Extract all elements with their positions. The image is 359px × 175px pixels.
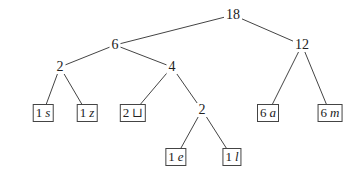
leaf-m: 6m — [318, 104, 343, 122]
node-2-left: 2 — [55, 60, 66, 74]
tree-edge — [115, 15, 233, 45]
leaf-symbol: l — [235, 149, 239, 164]
tree-edge — [60, 45, 115, 67]
leaf-count: 6 — [260, 105, 267, 120]
node-4: 4 — [167, 60, 178, 74]
leaf-symbol: s — [45, 105, 50, 120]
leaf-count: 2 — [123, 105, 130, 120]
leaf-symbol: e — [178, 149, 184, 164]
leaf-symbol: ⊔ — [132, 105, 143, 120]
tree-edge — [115, 45, 172, 67]
node-root: 18 — [224, 8, 242, 22]
node-6: 6 — [110, 38, 121, 52]
leaf-count: 1 — [225, 149, 232, 164]
leaf-count: 1 — [36, 105, 43, 120]
leaf-count: 6 — [321, 105, 328, 120]
tree-edge — [233, 15, 302, 45]
leaf-e: 1e — [165, 148, 186, 166]
node-2-inner: 2 — [197, 103, 208, 117]
leaf-symbol: m — [330, 105, 339, 120]
leaf-space: 2⊔ — [120, 104, 146, 122]
leaf-a: 6a — [257, 104, 279, 122]
tree-edge — [302, 45, 330, 113]
leaf-count: 1 — [168, 149, 175, 164]
leaf-symbol: z — [89, 105, 94, 120]
leaf-symbol: a — [270, 105, 277, 120]
leaf-z: 1z — [77, 104, 98, 122]
leaf-s: 1s — [33, 104, 54, 122]
leaf-l: 1l — [222, 148, 241, 166]
tree-edge — [268, 45, 302, 113]
node-12: 12 — [293, 38, 311, 52]
leaf-count: 1 — [80, 105, 87, 120]
